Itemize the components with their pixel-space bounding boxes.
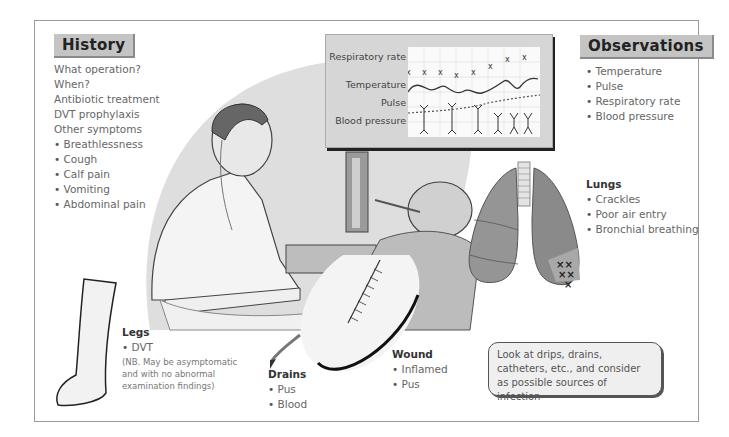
lungs-illustration: ××××× [466,160,586,295]
drains-item: Pus [268,382,307,397]
observations-header: Observations [580,35,714,59]
infection-sources-note: Look at drips, drains, catheters, etc., … [488,342,662,396]
svg-text:x: x [522,53,527,62]
svg-text:×: × [564,279,572,290]
lungs-item: Bronchial breathing [586,222,699,237]
leg-illustration [50,275,120,415]
legs-item: DVT [122,340,153,355]
drains-item: Blood [268,397,307,412]
observation-item: Blood pressure [586,109,680,124]
svg-text:x: x [471,68,476,77]
observation-chart: Respiratory rate Temperature Pulse Blood… [325,34,553,148]
drains-list: Pus Blood [268,382,307,412]
legs-list: DVT [122,340,153,355]
observations-list: Temperature Pulse Respiratory rate Blood… [586,64,680,124]
chart-label-bp: Blood pressure [335,115,406,127]
chart-label-respiratory: Respiratory rate [329,51,406,63]
observation-item: Pulse [586,79,680,94]
wound-title: Wound [392,348,433,360]
svg-text:x: x [488,62,493,71]
svg-text:x: x [454,71,459,80]
observation-item: Respiratory rate [586,94,680,109]
svg-text:x: x [422,68,427,77]
drains-title: Drains [268,368,306,380]
chart-label-pulse: Pulse [381,97,406,109]
chart-grid: xxx xxx xx [408,47,540,137]
svg-text:x: x [505,55,510,64]
legs-note: (NB. May be asymptomatic and with no abn… [122,356,237,392]
lungs-item: Poor air entry [586,207,699,222]
svg-text:x: x [408,68,411,77]
wound-item: Pus [392,377,448,392]
wound-item: Inflamed [392,362,448,377]
chart-label-temperature: Temperature [346,79,406,91]
observation-item: Temperature [586,64,680,79]
wound-list: Inflamed Pus [392,362,448,392]
svg-text:x: x [438,68,443,77]
lungs-list: Crackles Poor air entry Bronchial breath… [586,192,699,237]
lungs-title: Lungs [586,178,621,190]
legs-title: Legs [122,326,150,338]
lungs-item: Crackles [586,192,699,207]
